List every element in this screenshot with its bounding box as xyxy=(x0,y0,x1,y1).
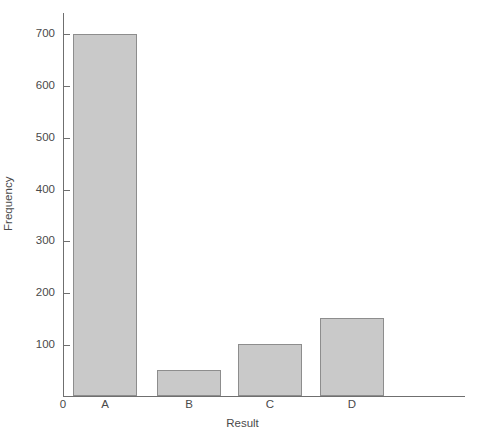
y-tick-mark-400 xyxy=(64,190,70,191)
y-tick-mark-200 xyxy=(64,293,70,294)
x-category-label-b: B xyxy=(169,399,209,411)
y-tick-label-200-wrap: 200 xyxy=(0,287,55,299)
y-tick-mark-600 xyxy=(64,86,70,87)
y-tick-label-600: 600 xyxy=(0,80,55,92)
x-axis-line xyxy=(63,396,465,397)
x-category-label-d: D xyxy=(332,399,372,411)
y-tick-mark-500 xyxy=(64,138,70,139)
y-tick-label-600-wrap: 600 xyxy=(0,80,55,92)
y-axis-line xyxy=(63,13,64,397)
y-tick-label-200: 200 xyxy=(0,287,55,299)
y-axis-title: Frequency xyxy=(3,164,15,244)
x-category-label-a: A xyxy=(85,399,125,411)
bar-a xyxy=(73,34,137,396)
x-origin-label: 0 xyxy=(43,399,83,411)
x-axis-title: Result xyxy=(0,418,485,430)
y-tick-mark-100 xyxy=(64,345,70,346)
y-tick-label-100-wrap: 100 xyxy=(0,339,55,351)
y-tick-mark-700 xyxy=(64,34,70,35)
y-tick-label-500: 500 xyxy=(0,132,55,144)
bar-b xyxy=(157,370,221,396)
y-tick-label-500-wrap: 500 xyxy=(0,132,55,144)
bar-chart: 700 600 500 400 300 200 100 0 A B C D Re… xyxy=(0,0,485,438)
bar-d xyxy=(320,318,384,396)
y-tick-mark-300 xyxy=(64,241,70,242)
bar-c xyxy=(238,344,302,396)
y-tick-label-100: 100 xyxy=(0,339,55,351)
y-tick-label-700-wrap: 700 xyxy=(0,28,55,40)
y-tick-label-700: 700 xyxy=(0,28,55,40)
x-category-label-c: C xyxy=(250,399,290,411)
plot-area: 700 600 500 400 300 200 100 0 A B C D Re… xyxy=(0,0,485,438)
